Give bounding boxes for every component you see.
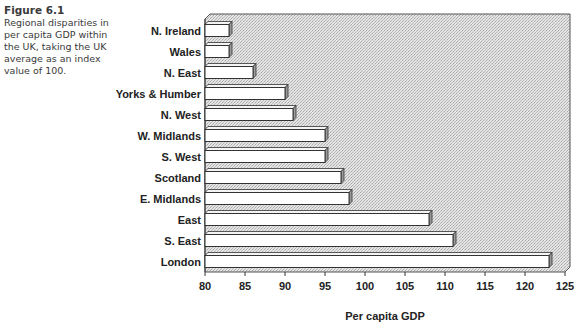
category-label: N. Ireland: [151, 25, 201, 37]
category-label: W. Midlands: [137, 130, 201, 142]
x-tick-label: 95: [319, 280, 331, 292]
x-tick-label: 115: [476, 280, 494, 292]
x-axis-title: Per capita GDP: [345, 310, 424, 322]
category-label: Yorks & Humber: [116, 88, 202, 100]
bar: [205, 127, 328, 142]
bar: [205, 106, 296, 121]
category-label: East: [178, 214, 202, 226]
bar: [205, 148, 328, 163]
x-tick-label: 110: [436, 280, 454, 292]
bar: [205, 232, 456, 247]
bar-chart: N. IrelandWalesN. EastYorks & HumberN. W…: [0, 0, 586, 331]
bar: [205, 169, 344, 184]
category-label: Scotland: [155, 172, 201, 184]
x-tick-label: 120: [516, 280, 534, 292]
category-label: S. East: [164, 235, 201, 247]
category-label: E. Midlands: [140, 193, 201, 205]
x-tick-label: 125: [556, 280, 574, 292]
x-tick-label: 100: [356, 280, 374, 292]
category-label: N. West: [161, 109, 201, 121]
x-tick-label: 80: [199, 280, 211, 292]
x-axis: 80859095100105110115120125: [199, 272, 574, 292]
bar: [205, 85, 288, 100]
bar: [205, 253, 552, 268]
bar: [205, 43, 232, 58]
bar: [205, 211, 432, 226]
category-label: Wales: [170, 46, 201, 58]
x-tick-label: 85: [239, 280, 251, 292]
x-tick-label: 105: [396, 280, 414, 292]
category-labels: N. IrelandWalesN. EastYorks & HumberN. W…: [116, 25, 202, 268]
x-tick-label: 90: [279, 280, 291, 292]
bar: [205, 22, 232, 37]
category-label: N. East: [164, 67, 202, 79]
bar: [205, 64, 256, 79]
category-label: S. West: [161, 151, 201, 163]
bar: [205, 190, 352, 205]
category-label: London: [161, 256, 202, 268]
